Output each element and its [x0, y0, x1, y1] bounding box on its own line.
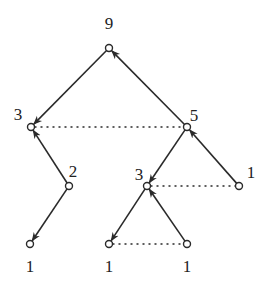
node-label-n3a: 3: [14, 105, 23, 124]
arrow-edge-n2-n1a: [32, 189, 67, 241]
node-label-n3b: 3: [135, 165, 144, 184]
node-n2: [66, 183, 73, 190]
node-label-n1b: 1: [105, 257, 114, 276]
node-n3b: [144, 183, 151, 190]
node-label-n5: 5: [190, 106, 199, 125]
labels-layer: 935231111: [14, 14, 256, 276]
node-n9: [106, 45, 113, 52]
node-label-n1c: 1: [183, 257, 192, 276]
node-n1a: [27, 241, 34, 248]
arrow-edge-n3b-n1b: [111, 189, 145, 241]
arrow-edge-n1r-n5: [190, 130, 237, 183]
arrow-edge-n9-n3a: [34, 50, 107, 124]
tree-diagram: 935231111: [0, 0, 265, 284]
arrow-edge-n5-n3b: [149, 130, 185, 183]
node-n1r: [236, 183, 243, 190]
node-label-n2: 2: [69, 162, 78, 181]
node-label-n1a: 1: [26, 257, 35, 276]
node-n1c: [184, 241, 191, 248]
arrow-edge-n2-n3a: [33, 130, 67, 183]
node-n3a: [28, 124, 35, 131]
arrow-edge-n5-n9: [112, 51, 185, 125]
node-label-n1r: 1: [247, 163, 256, 182]
edges-layer: [32, 50, 236, 244]
node-label-n9: 9: [105, 14, 114, 33]
node-n1b: [106, 241, 113, 248]
arrow-edge-n1c-n3b: [149, 189, 185, 241]
